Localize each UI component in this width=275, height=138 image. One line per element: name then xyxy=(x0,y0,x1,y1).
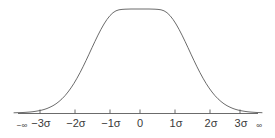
x-tick-label-neg-2sigma: −2σ xyxy=(66,117,85,129)
x-tick-label-zero: 0 xyxy=(137,117,143,129)
normal-curve-path xyxy=(14,9,262,113)
x-tick-label-neg-1sigma: −1σ xyxy=(101,117,120,129)
x-axis-ticks xyxy=(40,110,240,114)
x-tick-label-neg-3sigma: −3σ xyxy=(31,117,50,129)
x-tick-label-pos-3sigma: 3σ xyxy=(235,117,248,129)
x-tick-label-pos-1sigma: 1σ xyxy=(170,117,183,129)
x-tick-label-pos-2sigma: 2σ xyxy=(205,117,218,129)
x-tick-label-pos-infinity: ∞ xyxy=(256,120,262,132)
bell-curve-figure: −∞ −3σ −2σ −1σ 0 1σ 2σ 3σ ∞ xyxy=(0,0,275,138)
x-tick-label-neg-infinity: −∞ xyxy=(17,120,27,132)
